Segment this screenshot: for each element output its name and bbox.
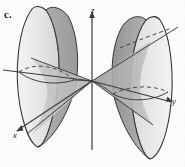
figure-panel-c: c. z y x (0, 0, 185, 167)
hyperboloid-two-sheets-illustration (0, 0, 185, 167)
panel-label-c: c. (4, 9, 12, 20)
x-axis-arrowhead (16, 125, 24, 132)
right-sheet (92, 17, 178, 159)
y-axis-label: y (172, 97, 176, 106)
z-axis-label: z (91, 6, 95, 15)
x-axis-label: x (13, 131, 17, 140)
